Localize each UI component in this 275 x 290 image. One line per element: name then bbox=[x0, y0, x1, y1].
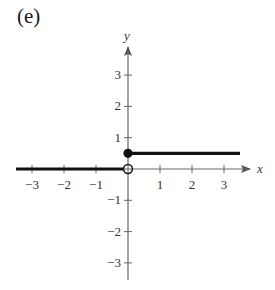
y-tick-label: 3 bbox=[115, 67, 122, 82]
y-tick-label: −1 bbox=[107, 192, 121, 207]
x-tick-label: −2 bbox=[57, 177, 71, 192]
x-tick-label: 2 bbox=[189, 177, 196, 192]
closed-endpoint-dot bbox=[123, 149, 132, 158]
y-axis-label: y bbox=[122, 28, 130, 43]
y-tick-label: 2 bbox=[115, 98, 122, 113]
axes bbox=[17, 47, 250, 280]
y-tick-label: −3 bbox=[107, 255, 121, 270]
x-tick-label: −3 bbox=[25, 177, 39, 192]
x-tick-label: 1 bbox=[157, 177, 164, 192]
y-tick-label: 1 bbox=[115, 130, 122, 145]
x-tick-label: −1 bbox=[89, 177, 103, 192]
x-tick-label: 3 bbox=[221, 177, 228, 192]
x-axis-label: x bbox=[256, 161, 263, 176]
y-tick-label: −2 bbox=[107, 224, 121, 239]
step-function-plot: −3−2−1123 321−1−2−3 x y bbox=[0, 0, 275, 290]
